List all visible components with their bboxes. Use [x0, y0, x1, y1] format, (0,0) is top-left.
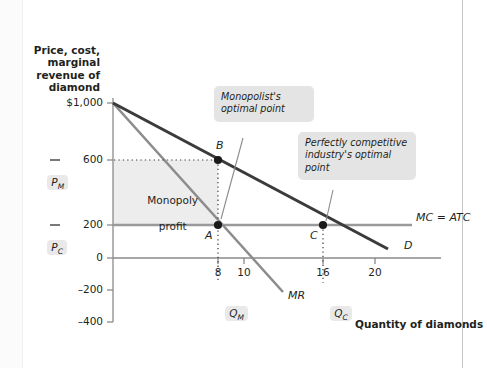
- x-tick-label-16: 16: [311, 266, 335, 278]
- price-marker-pm-badge: PM: [47, 175, 68, 190]
- monopoly-vs-competition-diagram: Price, cost, marginal revenue of diamond…: [0, 0, 487, 368]
- callout-monopolist-line2: optimal point: [221, 103, 285, 114]
- y-tick-label-1000: $1,000: [48, 96, 103, 108]
- quantity-marker-qm-sub: M: [238, 313, 244, 322]
- price-marker-pm: PM: [27, 153, 68, 211]
- price-marker-pc-badge: PC: [47, 240, 67, 255]
- data-point-a: [214, 221, 222, 229]
- monopoly-profit-label: Monopoly profit: [120, 181, 212, 247]
- quantity-marker-qm: QM: [205, 284, 248, 342]
- data-point-b: [214, 156, 222, 164]
- callout-monopolist-optimal-point: Monopolist's optimal point: [214, 86, 314, 122]
- quantity-marker-qm-base: Q: [229, 307, 237, 319]
- quantity-marker-qc: QC: [310, 284, 352, 342]
- price-marker-pc-sub: C: [58, 247, 63, 256]
- y-axis-title: Price, cost, marginal revenue of diamond: [22, 44, 100, 94]
- curve-label-mc-atc: MC = ATC: [416, 212, 471, 225]
- x-tick-label-20: 20: [363, 266, 387, 278]
- point-label-c: C: [310, 230, 318, 243]
- y-tick-label-neg400: –400: [48, 315, 103, 327]
- callout-leader-monopolist: [221, 138, 243, 219]
- point-label-b: B: [216, 140, 224, 153]
- quantity-marker-qc-badge: QC: [330, 306, 352, 321]
- price-marker-pc: PC: [27, 218, 67, 276]
- data-point-c: [319, 221, 327, 229]
- curve-label-d: D: [404, 240, 412, 253]
- callout-competitive-line3: point: [305, 162, 329, 173]
- x-axis-title: Quantity of diamonds: [355, 318, 483, 330]
- x-tick-label-8: 8: [206, 266, 230, 278]
- monopoly-profit-label-line1: Monopoly: [147, 194, 198, 206]
- quantity-marker-qm-badge: QM: [225, 306, 248, 321]
- callout-competitive-line2: industry's optimal: [305, 149, 391, 160]
- price-marker-pm-sub: M: [58, 182, 64, 191]
- quantity-marker-qc-base: Q: [334, 307, 342, 319]
- callout-competitive-optimal-point: Perfectly competitive industry's optimal…: [298, 132, 416, 180]
- x-tick-label-10: 10: [232, 266, 256, 278]
- curve-label-mr: MR: [288, 290, 305, 303]
- quantity-marker-qc-sub: C: [343, 313, 348, 322]
- callout-competitive-line1: Perfectly competitive: [305, 137, 407, 148]
- callout-monopolist-line1: Monopolist's: [221, 91, 281, 102]
- y-tick-label-neg200: –200: [48, 283, 103, 295]
- monopoly-profit-label-line2: profit: [159, 220, 187, 232]
